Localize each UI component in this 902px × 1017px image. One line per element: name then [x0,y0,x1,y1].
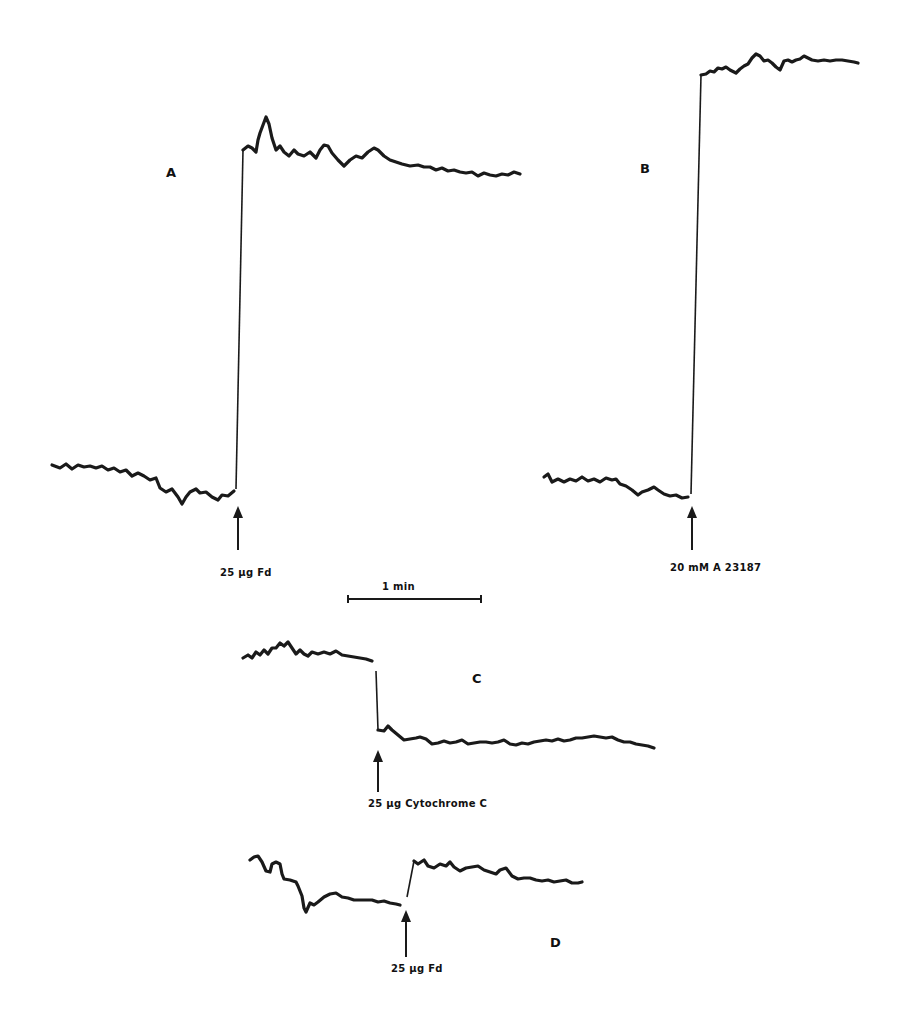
addition-arrow-d [401,910,411,957]
panel-label-d: D [550,935,561,950]
trace-c [243,642,654,748]
panel-label-c: C [472,671,482,686]
trace-a [52,117,520,504]
panel-label-b: B [640,161,650,176]
trace-b [544,54,858,498]
scale-bar-label: 1 min [382,581,415,592]
addition-label-a: 25 µg Fd [220,567,272,578]
addition-label-c: 25 µg Cytochrome C [368,798,487,809]
trace-d [250,856,582,912]
figure-canvas [0,0,902,1017]
addition-arrow-a [233,506,243,550]
scale-bar [348,595,481,603]
panel-label-a: A [166,165,176,180]
addition-label-b: 20 mM A 23187 [670,562,761,573]
addition-label-d: 25 µg Fd [391,963,443,974]
addition-arrow-b [687,506,697,550]
addition-arrow-c [373,750,383,792]
